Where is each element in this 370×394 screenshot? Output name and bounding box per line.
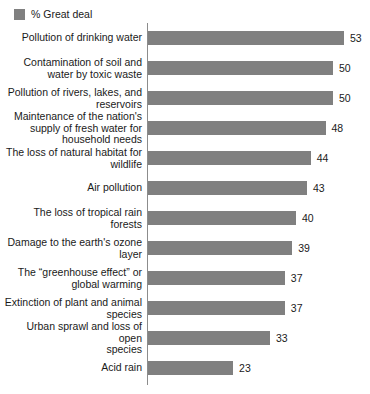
- bar-row: The loss of tropical rain forests40: [0, 203, 370, 233]
- category-label: Maintenance of the nation's supply of fr…: [2, 111, 142, 146]
- bar-value-label: 48: [332, 122, 344, 134]
- category-label: Acid rain: [2, 362, 142, 374]
- chart-legend: % Great deal: [14, 7, 92, 21]
- bar: [148, 181, 307, 195]
- bar-row: Contamination of soil and water by toxic…: [0, 53, 370, 83]
- bar-row: Acid rain23: [0, 353, 370, 383]
- bar-chart: % Great deal Pollution of drinking water…: [0, 0, 370, 394]
- category-label: Contamination of soil and water by toxic…: [2, 57, 142, 80]
- legend-swatch-icon: [14, 9, 25, 20]
- category-label: Urban sprawl and loss of open species: [2, 321, 142, 356]
- category-label: The “greenhouse effect” or global warmin…: [2, 267, 142, 290]
- category-label: Pollution of rivers, lakes, and reservoi…: [2, 87, 142, 110]
- bar-value-label: 44: [317, 152, 329, 164]
- bar-value-label: 39: [298, 242, 310, 254]
- legend-label: % Great deal: [31, 8, 92, 20]
- bar-value-label: 37: [291, 272, 303, 284]
- category-label: Extinction of plant and animal species: [2, 297, 142, 320]
- bar-row: Urban sprawl and loss of open species33: [0, 323, 370, 353]
- category-label: The loss of natural habitat for wildlife: [2, 147, 142, 170]
- bar: [148, 151, 311, 165]
- category-label: The loss of tropical rain forests: [2, 207, 142, 230]
- bar: [148, 241, 292, 255]
- bar-value-label: 53: [350, 32, 362, 44]
- bar-row: Maintenance of the nation's supply of fr…: [0, 113, 370, 143]
- bar-row: Air pollution43: [0, 173, 370, 203]
- bar-row: Pollution of rivers, lakes, and reservoi…: [0, 83, 370, 113]
- bar-row: The “greenhouse effect” or global warmin…: [0, 263, 370, 293]
- bar-row: Extinction of plant and animal species37: [0, 293, 370, 323]
- bar: [148, 31, 344, 45]
- category-label: Damage to the earth's ozone layer: [2, 237, 142, 260]
- bar-value-label: 37: [291, 302, 303, 314]
- bar: [148, 361, 233, 375]
- bar: [148, 331, 270, 345]
- bar-value-label: 50: [339, 92, 351, 104]
- bar: [148, 301, 285, 315]
- bar: [148, 121, 326, 135]
- bar: [148, 211, 296, 225]
- bar-value-label: 23: [239, 362, 251, 374]
- bar-value-label: 43: [313, 182, 325, 194]
- plot-area: Pollution of drinking water53Contaminati…: [0, 23, 370, 385]
- bar: [148, 61, 333, 75]
- bar-row: Pollution of drinking water53: [0, 23, 370, 53]
- category-label: Pollution of drinking water: [2, 32, 142, 44]
- category-label: Air pollution: [2, 182, 142, 194]
- bar-row: The loss of natural habitat for wildlife…: [0, 143, 370, 173]
- bar-value-label: 33: [276, 332, 288, 344]
- bar-value-label: 50: [339, 62, 351, 74]
- bar: [148, 91, 333, 105]
- bar: [148, 271, 285, 285]
- bar-row: Damage to the earth's ozone layer39: [0, 233, 370, 263]
- bar-value-label: 40: [302, 212, 314, 224]
